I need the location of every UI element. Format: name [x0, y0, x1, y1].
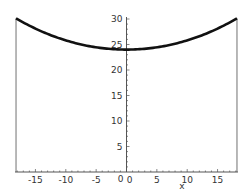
x-axis-label: x — [179, 181, 185, 191]
x-tick-label: 15 — [212, 175, 223, 185]
tick-labels: -15-10-5051015051015202530 — [28, 14, 223, 185]
y-tick-label: 10 — [111, 116, 123, 126]
y-tick-label: 5 — [117, 142, 123, 152]
x-tick-label: -5 — [92, 175, 101, 185]
x-tick-label: -15 — [28, 175, 43, 185]
y-tick-label: 30 — [111, 14, 123, 24]
y-origin-label: 0 — [118, 174, 124, 184]
y-tick-label: 20 — [111, 65, 123, 75]
x-tick-label: 0 — [127, 175, 133, 185]
x-tick-label: 5 — [154, 175, 160, 185]
x-tick-label: -10 — [58, 175, 73, 185]
y-tick-label: 15 — [111, 91, 122, 101]
axes — [15, 17, 238, 172]
chart: -15-10-5051015051015202530 x — [0, 0, 251, 193]
